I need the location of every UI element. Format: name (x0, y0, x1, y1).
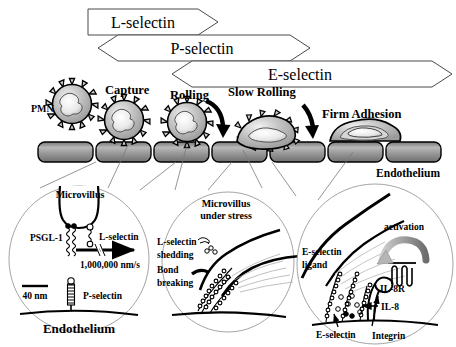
endothelial-cell-block (154, 142, 209, 162)
selectin-bar-e-label: E-selectin (268, 66, 332, 83)
inset3-integrin-label: Integrin (372, 331, 406, 341)
endothelial-cell-block (386, 142, 441, 162)
inset2-microvillus-line1: Microvillus (202, 198, 251, 209)
inset1-psgl1-label: PSGL-1 (30, 233, 63, 243)
inset2-bond-line1: Bond (157, 265, 179, 275)
inset3-activation-label: activation (384, 222, 425, 232)
adhesion-cascade-figure: L-selectin P-selectin E-selectin (0, 0, 456, 347)
inset1-microvillus-label: Microvillus (56, 189, 105, 200)
inset3-eselectin-label: E-selectin (316, 330, 356, 340)
firm-adhesion-inset: E-selectin ligand (297, 184, 453, 344)
selectin-bar-e: E-selectin (172, 61, 452, 87)
inset2-shedding-line2: shedding (157, 250, 194, 260)
endothelium-layer (38, 142, 441, 162)
inset3-ligand-line1: E-selectin (302, 247, 342, 257)
step-label-firm-adhesion: Firm Adhesion (322, 107, 402, 121)
selectin-bar-l: L-selectin (88, 9, 218, 35)
inset1-pselectin-label: P-selectin (83, 291, 123, 301)
step-label-rolling: Rolling (170, 88, 210, 102)
selectin-bar-p-label: P-selectin (170, 40, 233, 57)
step-label-slow-rolling: Slow Rolling (228, 85, 296, 99)
endothelial-cell-block (328, 142, 383, 162)
step-label-capture: Capture (105, 83, 150, 97)
selectin-bar-p: P-selectin (98, 35, 310, 61)
selectin-bar-l-label: L-selectin (111, 14, 175, 31)
inset3-il8r-label: IL-8R (380, 284, 405, 294)
inset2-shedding-line1: L-selectin (157, 237, 197, 247)
inset1-speed-label: 1,000,000 nm/s (80, 260, 140, 270)
inset1-scale-label: 40 nm (22, 291, 47, 301)
pmn-label: PMN (31, 103, 55, 114)
inset2-microvillus-line2: under stress (200, 210, 252, 221)
inset1-endothelium-label: Endothelium (43, 321, 115, 336)
endothelial-cell-block (38, 142, 93, 162)
endothelium-label: Endothelium (376, 167, 440, 179)
capture-inset: Microvillus PSGL-1 L-selectin 1,000,000 … (9, 186, 149, 336)
inset3-ligand-line2: ligand (302, 260, 328, 270)
inset1-lselectin-label: L-selectin (99, 232, 139, 242)
inset2-bond-line2: breaking (157, 278, 194, 288)
inset3-il8-label: IL-8 (381, 302, 399, 312)
